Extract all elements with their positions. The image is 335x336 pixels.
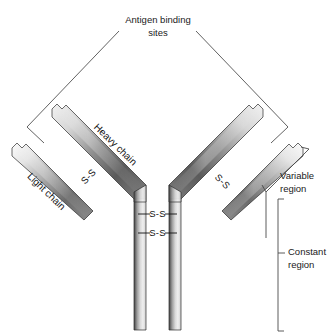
disulfide-bond-right-arm: S-S	[213, 171, 233, 191]
constant-region-bracket	[278, 199, 285, 331]
disulfide-bond-left-arm: S-S	[79, 166, 99, 186]
heavy-chain-right-arm-sheen	[172, 108, 260, 196]
disulfide-bond-left-arm-label: S-S	[79, 166, 99, 186]
light-chain-right	[222, 143, 303, 220]
hinge-upper-label: S-S	[149, 208, 166, 219]
variable-region-label-line2: region	[280, 183, 306, 194]
heavy-chain-left-stem	[134, 199, 146, 330]
antigen-binding-tick-left	[27, 127, 44, 143]
antigen-binding-tick-right	[271, 127, 288, 143]
constant-region-label-line1: Constant	[288, 246, 326, 257]
light-chain-left-sheen	[15, 147, 90, 217]
heavy-chain-left	[52, 104, 146, 330]
antibody-diagram: Antigen binding sites	[0, 0, 335, 336]
hinge-lower-label: S-S	[149, 227, 166, 238]
heavy-chain-right-stem	[169, 199, 181, 330]
antigen-binding-sites-label-line2: sites	[148, 27, 168, 38]
variable-region-label-line1: Variable	[280, 170, 314, 181]
antigen-binding-sites-label-line1: Antigen binding	[125, 14, 191, 25]
constant-region-label-line2: region	[288, 259, 314, 270]
heavy-chain-right	[169, 104, 263, 330]
disulfide-bond-right-arm-label: S-S	[213, 171, 233, 191]
